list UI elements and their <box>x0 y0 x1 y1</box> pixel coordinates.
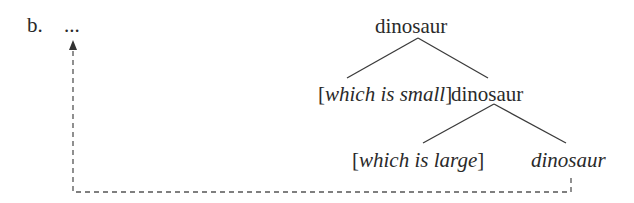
bracket-open: [ <box>352 148 359 172</box>
branch-mid-right <box>494 104 566 143</box>
relative-clause-small: [which is small] <box>318 82 452 106</box>
tree-leaf-node-moved: dinosaur <box>531 148 606 172</box>
tree-diagram-lines <box>0 0 634 203</box>
arrowhead-up-icon <box>69 40 77 50</box>
branch-root-left <box>347 38 418 78</box>
movement-dashed-arrow <box>73 50 571 192</box>
tree-mid-node: dinosaur <box>451 82 523 106</box>
ellipsis-landing-site: ... <box>64 13 80 37</box>
bracket-open: [ <box>318 82 325 106</box>
bracket-close: ] <box>477 148 484 172</box>
branch-mid-left <box>423 104 494 143</box>
branch-root-right <box>418 38 488 78</box>
relative-clause-large: [which is large] <box>352 148 484 172</box>
tree-root-node: dinosaur <box>375 14 447 38</box>
example-label: b. <box>27 13 43 37</box>
clause-text: which is small <box>325 82 445 106</box>
clause-text: which is large <box>359 148 477 172</box>
